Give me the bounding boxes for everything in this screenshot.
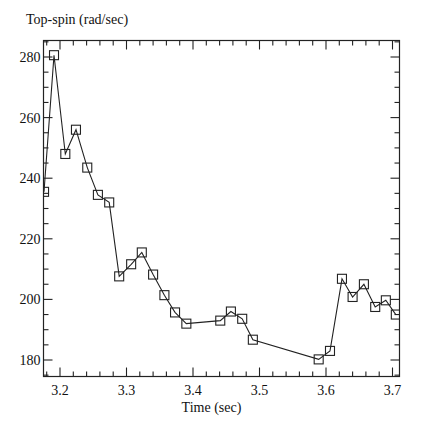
svg-text:260: 260 [20,111,41,126]
svg-text:3.6: 3.6 [317,383,335,398]
data-series [40,51,401,364]
tick-labels: 3.23.33.43.53.63.7180200220240260280 [20,50,402,398]
svg-text:240: 240 [20,171,41,186]
line-chart: 3.23.33.43.53.63.7180200220240260280 [0,0,423,438]
svg-text:3.3: 3.3 [118,383,136,398]
svg-text:3.5: 3.5 [251,383,269,398]
x-axis-title: Time (sec) [0,400,423,416]
svg-text:220: 220 [20,232,41,247]
svg-text:3.7: 3.7 [384,383,402,398]
svg-text:280: 280 [20,50,41,65]
svg-text:3.4: 3.4 [184,383,202,398]
svg-text:3.2: 3.2 [51,383,69,398]
svg-text:180: 180 [20,353,41,368]
axis-ticks [44,41,400,377]
svg-text:200: 200 [20,292,41,307]
plot-frame [44,41,400,377]
